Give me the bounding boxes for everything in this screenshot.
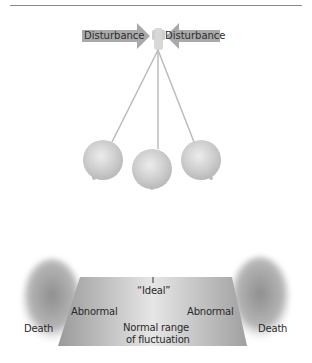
normal-range-label-line2: of fluctuation	[126, 335, 190, 345]
ideal-label: “Ideal”	[137, 286, 170, 296]
diagram-graphics	[0, 0, 312, 363]
death-label-right: Death	[258, 324, 287, 334]
death-label-left: Death	[24, 324, 53, 334]
pendulum-strings	[112, 50, 194, 149]
disturbance-label-right: Disturbance	[165, 31, 226, 41]
pivot-hand-icon	[152, 28, 165, 50]
normal-range-label-line1: Normal range	[123, 323, 189, 333]
pendulum-bob-left	[83, 140, 123, 180]
abnormal-label-left: Abnormal	[71, 307, 118, 317]
abnormal-label-right: Abnormal	[187, 307, 234, 317]
pendulum-bob-center	[132, 149, 172, 190]
disturbance-label-left: Disturbance	[84, 31, 145, 41]
pendulum-bob-right	[181, 140, 221, 180]
